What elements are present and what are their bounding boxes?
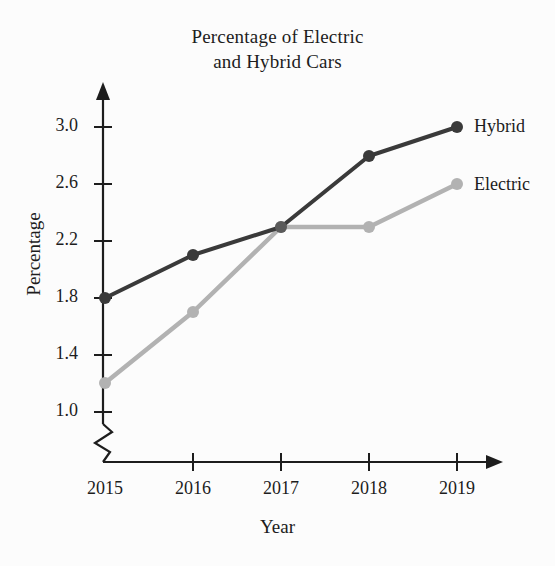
- y-tick-label-1.4: 1.4: [26, 343, 78, 364]
- data-point-hybrid-2018: [363, 150, 375, 162]
- y-tick-label-2.6: 2.6: [26, 172, 78, 193]
- y-tick-label-1.0: 1.0: [26, 400, 78, 421]
- x-axis-arrowhead: [486, 455, 503, 469]
- y-axis-arrowhead: [96, 82, 110, 100]
- series-line-electric: [105, 184, 457, 383]
- data-point-hybrid-2015: [99, 292, 111, 304]
- series-label-hybrid: Hybrid: [474, 116, 525, 137]
- y-tick-label-3.0: 3.0: [26, 115, 78, 136]
- data-point-hybrid-2019: [451, 121, 463, 133]
- x-tick-label-2018: 2018: [334, 478, 404, 499]
- y-axis-title: Percentage: [23, 194, 45, 314]
- x-axis-title: Year: [0, 516, 555, 538]
- data-point-electric-2016: [187, 306, 199, 318]
- chart-container: Percentage of Electric and Hybrid Cars: [0, 0, 555, 566]
- data-point-electric-2015: [99, 377, 111, 389]
- x-tick-label-2015: 2015: [70, 478, 140, 499]
- data-point-electric-2018: [363, 221, 375, 233]
- y-axis-break-icon: [95, 424, 112, 462]
- data-point-hybrid-2017: [275, 221, 287, 233]
- series-label-electric: Electric: [474, 174, 530, 195]
- data-point-hybrid-2016: [187, 249, 199, 261]
- series-line-hybrid: [105, 127, 457, 298]
- x-tick-label-2016: 2016: [158, 478, 228, 499]
- data-point-electric-2019: [451, 178, 463, 190]
- x-tick-label-2017: 2017: [246, 478, 316, 499]
- x-tick-label-2019: 2019: [422, 478, 492, 499]
